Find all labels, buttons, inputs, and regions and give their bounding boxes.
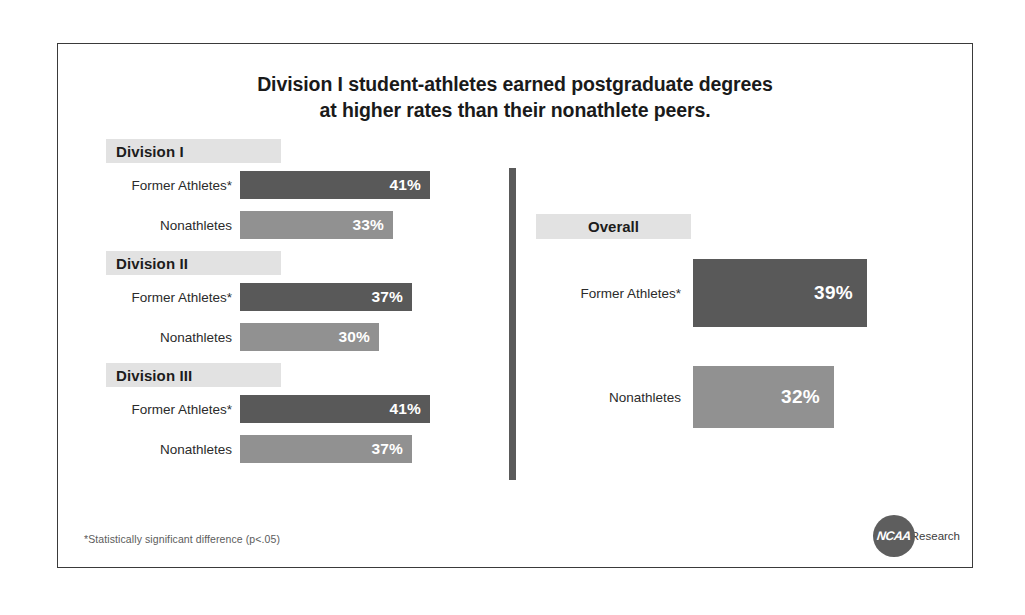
bar-value: 32%: [781, 386, 820, 408]
bar-former-athletes: 39%: [693, 259, 867, 327]
bar-nonathletes: 33%: [240, 211, 393, 239]
bar-track: 41%: [240, 167, 513, 203]
title-line-2: at higher rates than their nonathlete pe…: [58, 98, 972, 124]
bar-value: 33%: [352, 216, 384, 234]
slide-frame: Division I student-athletes earned postg…: [57, 43, 973, 568]
bar-row: Former Athletes* 37%: [58, 279, 513, 315]
group-header-label-3: Division III: [116, 367, 192, 384]
overall-header-band: Overall: [536, 214, 691, 239]
bar-label: Former Athletes*: [528, 286, 693, 301]
page-title: Division I student-athletes earned postg…: [58, 72, 972, 123]
bar-label: Former Athletes*: [58, 402, 240, 417]
bar-value: 37%: [371, 288, 403, 306]
footnote: *Statistically significant difference (p…: [84, 533, 280, 545]
bar-former-athletes: 41%: [240, 395, 430, 423]
division-chart-panel: Division I Former Athletes* 41% Nonathle…: [58, 139, 513, 467]
title-line-1: Division I student-athletes earned postg…: [58, 72, 972, 98]
bar-label: Nonathletes: [58, 330, 240, 345]
bar-nonathletes: 30%: [240, 323, 379, 351]
bar-row: Nonathletes 37%: [58, 431, 513, 467]
bar-value: 41%: [389, 400, 421, 418]
group-header-band-3: Division III: [106, 363, 281, 387]
bar-label: Nonathletes: [528, 390, 693, 405]
bar-former-athletes: 37%: [240, 283, 412, 311]
bar-track: 37%: [240, 431, 513, 467]
group-header-label-2: Division II: [116, 255, 188, 272]
bar-row: Nonathletes 33%: [58, 207, 513, 243]
bar-value: 39%: [814, 282, 853, 304]
research-wordmark: Research: [911, 530, 960, 542]
group-header-band-2: Division II: [106, 251, 281, 275]
group-header-band-1: Division I: [106, 139, 281, 163]
bar-former-athletes: 41%: [240, 171, 430, 199]
bar-value: 30%: [338, 328, 370, 346]
bar-row: Former Athletes* 41%: [58, 391, 513, 427]
bar-label: Former Athletes*: [58, 290, 240, 305]
overall-header-label: Overall: [588, 218, 639, 235]
ncaa-research-logo: NCAA Research: [873, 515, 960, 557]
bar-nonathletes: 37%: [240, 435, 412, 463]
bar-label: Nonathletes: [58, 218, 240, 233]
bar-track: 41%: [240, 391, 513, 427]
overall-row-former-athletes: Former Athletes* 39%: [528, 259, 867, 327]
division-group-3: Division III Former Athletes* 41% Nonath…: [58, 363, 513, 467]
division-group-1: Division I Former Athletes* 41% Nonathle…: [58, 139, 513, 243]
bar-value: 37%: [371, 440, 403, 458]
division-group-2: Division II Former Athletes* 37% Nonathl…: [58, 251, 513, 355]
panel-divider: [509, 168, 516, 480]
bar-nonathletes: 32%: [693, 366, 834, 428]
bar-track: 30%: [240, 319, 513, 355]
bar-track: 37%: [240, 279, 513, 315]
group-header-label-1: Division I: [116, 143, 184, 160]
bar-label: Former Athletes*: [58, 178, 240, 193]
ncaa-circle-icon: NCAA: [873, 515, 915, 557]
ncaa-wordmark: NCAA: [876, 529, 911, 543]
bar-row: Former Athletes* 41%: [58, 167, 513, 203]
bar-value: 41%: [389, 176, 421, 194]
bar-track: 33%: [240, 207, 513, 243]
bar-label: Nonathletes: [58, 442, 240, 457]
bar-row: Nonathletes 30%: [58, 319, 513, 355]
overall-row-nonathletes: Nonathletes 32%: [528, 366, 834, 428]
